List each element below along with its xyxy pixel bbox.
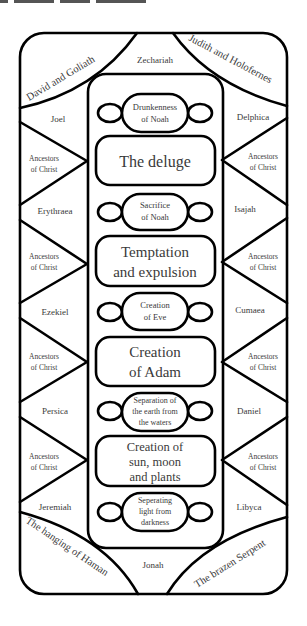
ceiling-diagram: David and Goliath Judith and Holofernes … <box>0 0 307 626</box>
panel-7-line-3: the waters <box>139 418 172 427</box>
right-label-2a: Ancestors <box>248 152 278 161</box>
panel-7-line-1: Separation of <box>134 396 177 405</box>
right-label-4a: Ancestors <box>248 252 278 261</box>
right-label-6a: Ancestors <box>248 352 278 361</box>
left-label-2b: of Christ <box>31 165 58 174</box>
panel-7-line-2: the earth from <box>132 407 178 416</box>
panel-6-line-1: Creation <box>129 344 181 360</box>
left-label-6a: Ancestors <box>29 352 59 361</box>
right-label-8a: Ancestors <box>248 452 278 461</box>
panel-5-line-1: Creation <box>140 300 170 310</box>
right-label-1: Delphica <box>237 112 269 122</box>
medallion-left-icon <box>98 402 122 420</box>
right-label-5: Cumaea <box>235 305 265 315</box>
panel-8-line-3: and plants <box>129 470 180 484</box>
right-triangle-4 <box>222 417 287 505</box>
left-label-8b: of Christ <box>31 463 58 472</box>
panel-1-line-1: Drunkenness <box>133 102 177 112</box>
medallion-right-icon <box>188 303 212 321</box>
panel-4-line-1: Temptation <box>121 244 190 260</box>
panel-6-line-2: of Adam <box>129 364 181 380</box>
right-label-3: Isajah <box>234 204 256 214</box>
left-label-4a: Ancestors <box>29 252 59 261</box>
panel-9-line-1: Seperating <box>138 496 172 505</box>
right-label-8b: of Christ <box>250 463 277 472</box>
left-label-1: Joel <box>51 114 66 124</box>
medallion-left-icon <box>98 503 122 521</box>
corner-label-bottom-right: The brazen Serpent <box>192 537 267 590</box>
medallion-right-icon <box>188 104 212 122</box>
medallion-right-icon <box>188 503 212 521</box>
medallion-right-icon <box>188 402 212 420</box>
left-label-8a: Ancestors <box>29 452 59 461</box>
panel-5-line-2: of Eve <box>144 312 167 322</box>
panel-3-line-1: Sacrifice <box>140 200 170 210</box>
panel-8-line-1: Creation of <box>127 440 184 454</box>
bottom-center-label: Jonah <box>143 560 164 570</box>
right-label-7: Daniel <box>237 406 261 416</box>
right-label-6b: of Christ <box>250 363 277 372</box>
medallion-left-icon <box>98 203 122 221</box>
right-label-2b: of Christ <box>250 163 277 172</box>
right-triangle-1 <box>222 118 287 205</box>
right-label-9: Libyca <box>237 502 262 512</box>
medallion-left-icon <box>98 104 122 122</box>
medallion-right-icon <box>188 203 212 221</box>
left-label-6b: of Christ <box>31 363 58 372</box>
panel-3-line-2: of Noah <box>141 212 169 222</box>
small-panel-1 <box>98 94 212 132</box>
left-label-7: Persica <box>42 406 68 416</box>
panel-8-line-2: sun, moon <box>129 455 182 469</box>
left-label-5: Ezekiel <box>42 307 69 317</box>
left-label-9: Jeremiah <box>39 502 72 512</box>
right-label-4b: of Christ <box>250 263 277 272</box>
panel-9-line-3: darkness <box>141 518 169 527</box>
left-label-2a: Ancestors <box>29 154 59 163</box>
left-triangle-1 <box>20 122 87 205</box>
bottom-right-spandrel-curve <box>167 517 287 594</box>
left-label-4b: of Christ <box>31 263 58 272</box>
top-center-label: Zechariah <box>137 55 173 65</box>
panel-2-line-1: The deluge <box>119 153 191 171</box>
medallion-left-icon <box>98 303 122 321</box>
corner-label-top-right: Judith and Holofernes <box>187 32 274 85</box>
left-triangle-2 <box>20 220 87 303</box>
left-label-3: Erythraea <box>38 206 73 216</box>
panel-9-line-2: light from <box>139 507 172 516</box>
panel-1-line-2: of Noah <box>141 114 169 124</box>
top-right-spandrel-curve <box>173 33 287 106</box>
panel-4-line-2: and expulsion <box>113 264 197 280</box>
